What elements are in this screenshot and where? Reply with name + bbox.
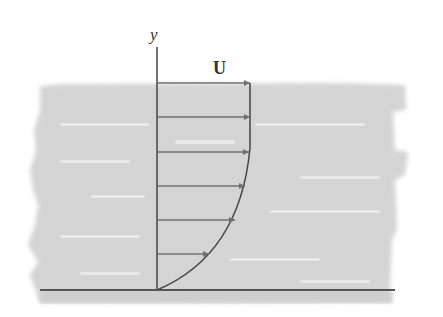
y-axis-label: y xyxy=(148,25,158,44)
freestream-velocity-label: U xyxy=(213,58,226,78)
velocity-profile-diagram: y U xyxy=(0,0,443,317)
ground-texture xyxy=(40,291,392,303)
fluid-region xyxy=(28,83,408,303)
